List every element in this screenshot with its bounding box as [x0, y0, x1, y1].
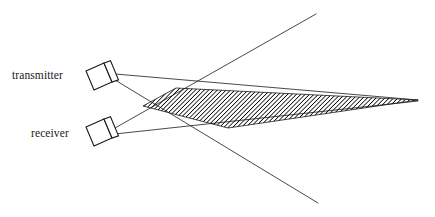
receiver-device [86, 117, 119, 146]
receiver-label: receiver [31, 127, 69, 139]
transmitter-label: transmitter [12, 69, 63, 81]
transmitter-device [86, 61, 119, 90]
beam-overlap-diagram: transmitter receiver [0, 0, 435, 217]
diagram-canvas: transmitter receiver [0, 0, 435, 217]
